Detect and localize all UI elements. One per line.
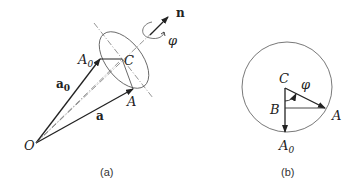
caption-a: (a)	[100, 166, 113, 178]
label-A0-b: A0	[278, 138, 294, 155]
label-C-a: C	[124, 53, 134, 68]
panel-b: C φ B A A0 (b)	[242, 42, 341, 178]
angle-phi-arc	[285, 94, 296, 101]
label-a-vector: a	[96, 109, 104, 123]
label-C-b: C	[279, 71, 289, 86]
label-A0-a: A0	[77, 52, 93, 69]
label-n: n	[176, 6, 185, 20]
label-phi-b: φ	[301, 77, 311, 92]
rotation-circle	[242, 42, 332, 132]
label-A-b: A	[331, 108, 341, 123]
caption-b: (b)	[281, 166, 294, 178]
label-A-a: A	[126, 94, 136, 109]
rotation-diagram: n φ A0 C a0 A a O (a) C φ B A A0 (b)	[0, 0, 358, 185]
panel-a: n φ A0 C a0 A a O (a)	[24, 6, 185, 178]
label-O: O	[24, 138, 35, 153]
label-B: B	[269, 102, 280, 117]
n-axis-arrow	[150, 17, 168, 35]
label-a0-vector: a0	[56, 77, 70, 93]
label-phi-a: φ	[168, 33, 178, 48]
cone-centerline	[36, 59, 122, 143]
vector-a0	[36, 59, 100, 143]
